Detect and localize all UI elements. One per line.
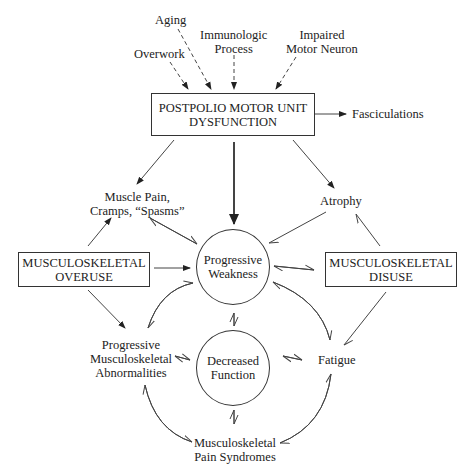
pain-syndromes-line2: Pain Syndromes: [194, 450, 276, 464]
postpolio-line1: POSTPOLIO MOTOR UNIT: [159, 101, 307, 115]
pain-syndromes-label: Musculoskeletal Pain Syndromes: [194, 436, 276, 464]
abnormalities-line1: Progressive: [90, 338, 172, 352]
muscle-pain-line2: Cramps, “Spasms”: [90, 204, 184, 218]
overuse-line2: OVERUSE: [22, 270, 145, 284]
pain-syndromes-line1: Musculoskeletal: [194, 436, 276, 450]
weakness-line1: Progressive: [204, 253, 262, 267]
cause-immunologic-line2: Process: [200, 42, 267, 56]
cause-immunologic-line1: Immunologic: [200, 28, 267, 42]
disuse-line1: MUSCULOSKELETAL: [329, 256, 452, 270]
overuse-line1: MUSCULOSKELETAL: [22, 256, 145, 270]
decreased-function-circle: Decreased Function: [196, 330, 270, 406]
abnormalities-line3: Abnormalities: [90, 366, 172, 380]
postpolio-line2: DYSFUNCTION: [159, 115, 307, 129]
musculoskeletal-overuse-box: MUSCULOSKELETAL OVERUSE: [18, 252, 150, 287]
fasciculations-label: Fasciculations: [352, 107, 424, 121]
musculoskeletal-disuse-box: MUSCULOSKELETAL DISUSE: [325, 252, 457, 287]
cause-impaired-line2: Motor Neuron: [286, 42, 358, 56]
postpolio-dysfunction-box: POSTPOLIO MOTOR UNIT DYSFUNCTION: [151, 93, 315, 136]
cause-impaired-motor-neuron: Impaired Motor Neuron: [286, 28, 358, 56]
abnormalities-line2: Musculoskeletal: [90, 352, 172, 366]
cause-immunologic: Immunologic Process: [200, 28, 267, 56]
cause-overwork: Overwork: [134, 47, 185, 61]
muscle-pain-line1: Muscle Pain,: [90, 190, 184, 204]
function-line1: Decreased: [207, 354, 259, 368]
weakness-line2: Weakness: [204, 267, 262, 281]
muscle-pain-label: Muscle Pain, Cramps, “Spasms”: [90, 190, 184, 218]
function-line2: Function: [207, 368, 259, 382]
cause-impaired-line1: Impaired: [286, 28, 358, 42]
disuse-line2: DISUSE: [329, 270, 452, 284]
fatigue-label: Fatigue: [318, 353, 356, 367]
cause-aging: Aging: [155, 13, 186, 27]
progressive-weakness-circle: Progressive Weakness: [196, 229, 270, 305]
progressive-abnormalities-label: Progressive Musculoskeletal Abnormalitie…: [90, 338, 172, 380]
atrophy-label: Atrophy: [320, 194, 362, 208]
